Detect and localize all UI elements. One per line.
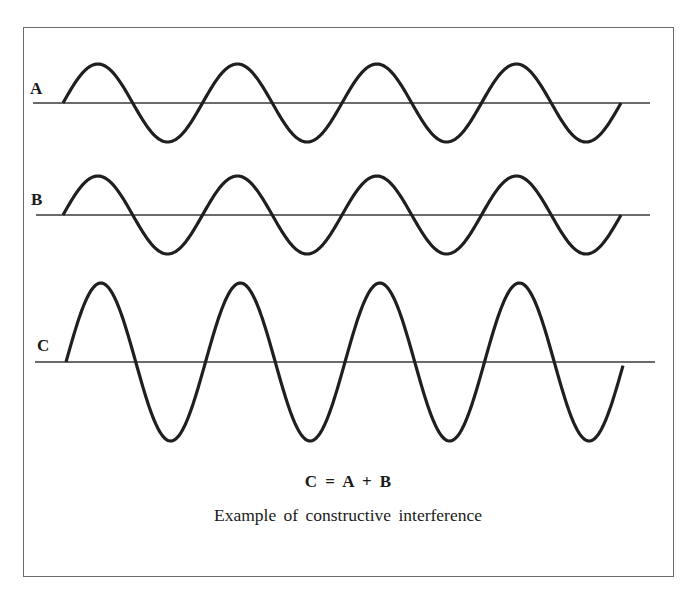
wave-a-label: A <box>30 80 42 97</box>
caption: Example of constructive interference <box>0 505 696 526</box>
wave-b <box>36 176 650 254</box>
wave-b-label: B <box>31 191 42 208</box>
wave-c <box>35 283 655 441</box>
wave-a <box>33 64 650 142</box>
wave-c-label: C <box>37 337 49 354</box>
equation: C = A + B <box>0 472 696 492</box>
